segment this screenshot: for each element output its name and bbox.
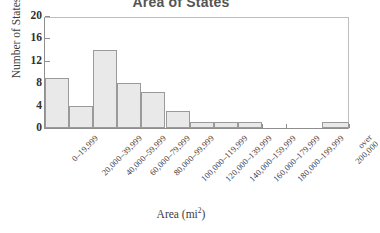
bar — [190, 122, 214, 128]
y-tick-label: 12 — [31, 54, 43, 66]
y-tick-label: 16 — [31, 31, 43, 43]
x-tick-mark — [349, 124, 350, 128]
bar — [93, 50, 117, 128]
bar — [141, 92, 165, 128]
x-tick-label: 0–19,999 — [70, 133, 100, 163]
chart-title: Area of States — [0, 0, 362, 9]
bar — [69, 106, 93, 128]
y-tick-label: 4 — [36, 99, 42, 111]
bar — [238, 122, 262, 128]
y-tick-mark — [45, 61, 50, 62]
x-tick-label: over 200,000 — [347, 133, 380, 166]
y-tick-label: 8 — [36, 76, 42, 88]
bar — [322, 122, 349, 128]
y-tick-mark — [45, 16, 50, 17]
x-tick-mark — [286, 124, 287, 128]
x-tick-mark — [262, 124, 263, 128]
bar — [166, 111, 190, 128]
x-axis-title-text: Area (mi — [157, 208, 198, 220]
plot-area: 048121620 — [44, 17, 349, 129]
bar — [117, 83, 141, 128]
x-axis-title-tail: ) — [202, 208, 206, 220]
bar — [214, 122, 238, 128]
y-tick-mark — [45, 38, 50, 39]
x-axis-title: Area (mi2) — [0, 206, 362, 220]
y-tick-label: 0 — [36, 121, 42, 133]
y-tick-mark — [45, 128, 50, 129]
bar — [45, 78, 69, 128]
y-axis-title: Number of States — [10, 0, 22, 98]
y-tick-label: 20 — [31, 9, 43, 21]
